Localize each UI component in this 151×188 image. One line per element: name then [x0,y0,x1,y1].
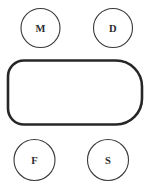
center-shape-group[interactable] [8,61,142,125]
node-s[interactable]: S [88,140,129,181]
diagram-canvas: M D F S [0,0,151,188]
node-m-label: M [35,23,45,34]
diagram-svg: M D F S [0,0,151,188]
node-f-label: F [31,155,38,166]
center-rounded-rectangle[interactable] [8,61,142,125]
node-s-label: S [105,155,111,166]
node-m[interactable]: M [21,9,60,48]
node-d-label: D [109,23,117,34]
node-f[interactable]: F [14,140,55,181]
node-d[interactable]: D [94,9,133,48]
